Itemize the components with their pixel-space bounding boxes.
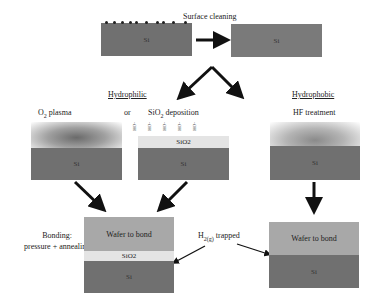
to-hydrophilic-arrow bbox=[183, 67, 212, 94]
particle bbox=[172, 21, 175, 24]
hydrophilic-bond-oxide-label: SiO2 bbox=[122, 252, 136, 260]
hydrophilic-bond-top-wafer: Wafer to bond bbox=[84, 217, 174, 251]
hydrophobic-bond-top-label: Wafer to bond bbox=[291, 234, 337, 243]
sio2-deposition-label: SiO2 deposition bbox=[148, 108, 199, 119]
trapped-pointer-right bbox=[237, 244, 268, 254]
to-hydrophobic-arrow bbox=[212, 67, 238, 93]
plasma-cloud bbox=[31, 122, 122, 148]
hydrophobic-bond-si: Si bbox=[269, 255, 359, 288]
bonding-label: Bonding: pressure + annealing bbox=[24, 230, 90, 252]
oxide-to-bond-arrow bbox=[163, 182, 187, 206]
surface-cleaning-label: Surface cleaning bbox=[183, 12, 237, 21]
oh-group: -OH bbox=[192, 122, 197, 131]
oxide-wafer: Si bbox=[138, 148, 229, 180]
h2-trapped-label: H2(g) trapped bbox=[198, 231, 240, 242]
plasma-wafer: Si bbox=[31, 148, 122, 180]
particle bbox=[145, 21, 148, 24]
plasma-to-bond-arrow bbox=[75, 182, 100, 206]
oh-group: -OH bbox=[177, 122, 182, 131]
hf-cloud bbox=[270, 122, 360, 148]
hydrophobic-bond-top-wafer: Wafer to bond bbox=[269, 222, 359, 255]
hf-wafer: Si bbox=[270, 146, 360, 180]
hydrophilic-bond-si: Si bbox=[84, 261, 174, 293]
bonding-label-line2: pressure + annealing bbox=[24, 241, 90, 252]
hf-wafer-label: Si bbox=[312, 159, 318, 167]
dirty-wafer-label: Si bbox=[144, 36, 150, 44]
oh-group: -OH bbox=[147, 122, 152, 131]
particle bbox=[129, 21, 132, 24]
particle bbox=[113, 21, 116, 24]
hf-treatment-label: HF treatment bbox=[293, 108, 335, 117]
sio2-layer: SiO2 bbox=[138, 136, 229, 148]
particle bbox=[121, 21, 124, 24]
hydrophilic-bond-top-label: Wafer to bond bbox=[106, 230, 152, 239]
clean-wafer-label: Si bbox=[274, 37, 280, 45]
oh-group: -OH bbox=[162, 122, 167, 131]
particle bbox=[135, 21, 138, 24]
particle bbox=[105, 21, 108, 24]
hydrophilic-bond-si-label: Si bbox=[126, 273, 132, 281]
oh-group: -OH bbox=[132, 122, 137, 131]
dirty-wafer: Si bbox=[101, 23, 192, 56]
clean-wafer: Si bbox=[231, 24, 322, 57]
hydrophilic-bond-oxide: SiO2 bbox=[84, 251, 174, 261]
plasma-wafer-label: Si bbox=[74, 160, 80, 168]
hydrophilic-heading: Hydrophilic bbox=[108, 90, 147, 99]
particle bbox=[162, 21, 165, 24]
or-label: or bbox=[124, 108, 131, 117]
trapped-pointer-left bbox=[175, 246, 205, 262]
bonding-label-line1: Bonding: bbox=[24, 230, 90, 241]
o2-plasma-label: O2 plasma bbox=[38, 108, 71, 119]
particle bbox=[156, 21, 159, 24]
hydrophobic-heading: Hydrophobic bbox=[292, 90, 334, 99]
sio2-layer-label: SiO2 bbox=[176, 138, 190, 146]
particle bbox=[184, 21, 187, 24]
oxide-wafer-label: Si bbox=[181, 160, 187, 168]
hydrophobic-bond-si-label: Si bbox=[311, 268, 317, 276]
